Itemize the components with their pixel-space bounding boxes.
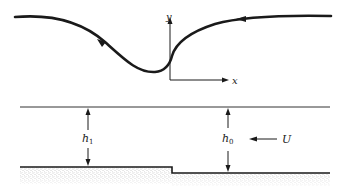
flow-arrow-icon: [236, 16, 246, 22]
channel-bed: [20, 167, 330, 188]
depth-indicator-h0: h0: [222, 108, 234, 172]
depth-indicator-h1: h1: [82, 108, 94, 166]
down-arrow-icon: [86, 159, 91, 166]
streamline-curve: [15, 16, 331, 72]
up-arrow-icon: [226, 108, 231, 115]
down-arrow-icon: [226, 165, 231, 172]
left-arrow-icon: [249, 137, 257, 142]
velocity-indicator: U: [249, 133, 292, 146]
x-axis-label: x: [232, 75, 238, 86]
x-axis-arrow-icon: [222, 78, 229, 83]
depth-label-h1: h1: [82, 132, 94, 146]
y-axis-label: y: [165, 11, 172, 22]
flow-diagram: y x h1 h0 U: [0, 0, 342, 193]
velocity-label: U: [282, 133, 292, 146]
streamline: [15, 16, 331, 72]
up-arrow-icon: [86, 108, 91, 115]
depth-label-h0: h0: [222, 132, 234, 146]
